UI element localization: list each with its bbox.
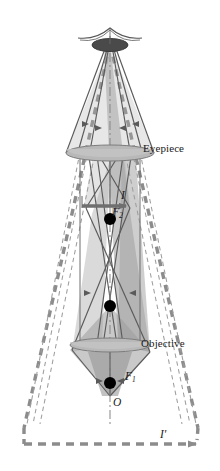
optics-ray-diagram: Eyepiece Objective I F2 F1 O I′ (0, 0, 220, 471)
label-focal-F1: F1 (125, 371, 136, 383)
label-virtual-image-prime: ′ (164, 428, 167, 440)
objective-lens (70, 338, 150, 352)
point-F1-dot (104, 377, 116, 389)
label-focal-F1-subscript: 1 (132, 375, 136, 384)
label-objective: Objective (141, 338, 185, 349)
dashed-ray-right-3 (140, 152, 196, 424)
virtual-image-right-corner (197, 428, 198, 440)
label-image-I: I (121, 190, 125, 202)
label-eyepiece: Eyepiece (143, 143, 184, 154)
label-virtual-image: I′ (160, 429, 166, 441)
label-focal-F2: F2 (112, 207, 123, 219)
label-focal-F1-letter: F (125, 370, 132, 382)
diagram-canvas (0, 0, 220, 471)
eyepiece-lens (66, 145, 154, 161)
label-focal-F2-subscript: 2 (119, 211, 123, 220)
label-point-O: O (113, 397, 121, 409)
label-focal-F2-letter: F (112, 206, 119, 218)
dashed-ray-left-3 (27, 152, 80, 424)
point-mid-dot (104, 300, 116, 312)
observer-eye (78, 28, 142, 52)
